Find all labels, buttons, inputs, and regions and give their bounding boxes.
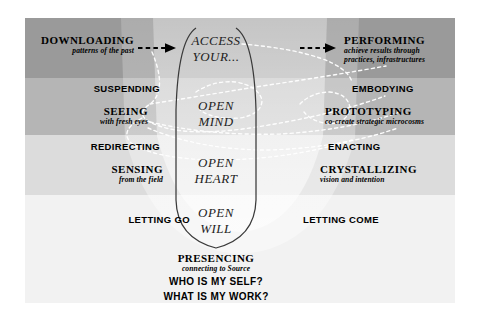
seeing-sub: with fresh eyes	[100, 117, 148, 126]
seeing-title: SEEING	[100, 105, 148, 117]
sensing-sub: from the field	[112, 175, 163, 184]
presencing-title: PRESENCING	[178, 252, 255, 264]
theory-u-diagram: DOWNLOADING patterns of the past SUSPEND…	[0, 0, 481, 331]
label-letting-come: LETTING COME	[303, 214, 379, 225]
question-work: WHAT IS MY WORK?	[163, 291, 268, 302]
right-dashed-arrow	[300, 43, 336, 53]
suspending-title: SUSPENDING	[94, 83, 160, 94]
label-suspending: SUSPENDING	[94, 83, 160, 94]
crystallizing-title: CRYSTALLIZING	[320, 163, 417, 175]
open-mind-line1: OPEN	[198, 98, 234, 114]
label-open-mind: OPEN MIND	[198, 98, 234, 130]
open-will-line1: OPEN	[198, 205, 234, 221]
label-open-heart: OPEN HEART	[195, 155, 238, 187]
embodying-title: EMBODYING	[352, 83, 414, 94]
label-prototyping: PROTOTYPING co-create strategic microcos…	[325, 105, 424, 126]
presencing-sub: connecting to Source	[178, 264, 255, 273]
open-mind-line2: MIND	[198, 114, 234, 130]
label-enacting: ENACTING	[328, 141, 380, 152]
letting-come-title: LETTING COME	[303, 214, 379, 225]
redirecting-title: REDIRECTING	[91, 141, 160, 152]
crystallizing-sub: vision and intention	[320, 175, 417, 184]
performing-sub2: practices, infrastructures	[344, 55, 425, 64]
question-self: WHO IS MY SELF?	[163, 276, 268, 287]
label-crystallizing: CRYSTALLIZING vision and intention	[320, 163, 417, 184]
label-open-will: OPEN WILL	[198, 205, 234, 237]
access-line1: ACCESS	[191, 33, 240, 49]
label-redirecting: REDIRECTING	[91, 141, 160, 152]
performing-title: PERFORMING	[344, 34, 425, 46]
label-embodying: EMBODYING	[352, 83, 414, 94]
letting-go-title: LETTING GO	[128, 214, 190, 225]
open-heart-line1: OPEN	[195, 155, 238, 171]
left-dashed-arrow	[138, 43, 176, 53]
open-will-line2: WILL	[198, 221, 234, 237]
label-letting-go: LETTING GO	[128, 214, 190, 225]
prototyping-sub: co-create strategic microcosms	[325, 117, 424, 126]
open-heart-line2: HEART	[195, 171, 238, 187]
prototyping-title: PROTOTYPING	[325, 105, 424, 117]
label-downloading: DOWNLOADING patterns of the past	[41, 34, 134, 55]
downloading-sub: patterns of the past	[41, 46, 134, 55]
label-seeing: SEEING with fresh eyes	[100, 105, 148, 126]
label-questions: WHO IS MY SELF? WHAT IS MY WORK?	[163, 276, 268, 302]
performing-sub1: achieve results through	[344, 46, 425, 55]
downloading-title: DOWNLOADING	[41, 34, 134, 46]
label-access-your: ACCESS YOUR...	[191, 33, 240, 65]
label-sensing: SENSING from the field	[112, 163, 163, 184]
sensing-title: SENSING	[112, 163, 163, 175]
label-performing: PERFORMING achieve results through pract…	[344, 34, 425, 64]
access-line2: YOUR...	[191, 49, 240, 65]
label-presencing: PRESENCING connecting to Source	[178, 252, 255, 273]
enacting-title: ENACTING	[328, 141, 380, 152]
